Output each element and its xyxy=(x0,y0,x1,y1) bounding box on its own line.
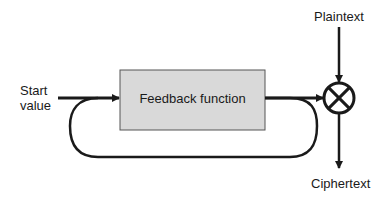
ciphertext-label: Ciphertext xyxy=(311,176,370,191)
plaintext-label: Plaintext xyxy=(314,9,364,24)
start-value-label-line1: Start xyxy=(20,83,51,98)
feedback-function-label: Feedback function xyxy=(120,91,265,106)
xor-icon xyxy=(324,83,354,113)
start-value-label: Start value xyxy=(20,83,51,113)
start-value-label-line2: value xyxy=(20,98,51,113)
